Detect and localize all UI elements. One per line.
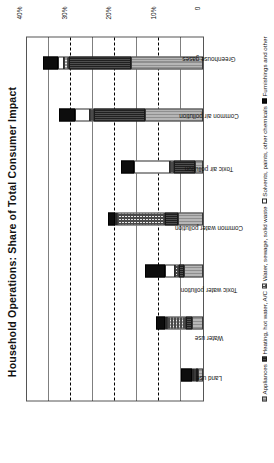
bar-segment[interactable] [108,212,115,225]
value-axis: 010%20%30%40% [26,4,204,34]
bar-segment[interactable] [165,212,178,225]
category-axis-label: Common water pollution [175,224,243,231]
bar-slot [27,37,203,89]
category-axis-label: Common air pollution [179,112,239,119]
chart-legend: AppliancesHeating, hot water, A/CWater, … [256,36,272,401]
bar-segment[interactable] [145,264,165,277]
bar-slot [27,89,203,141]
category-axis-label: Toxic air pollution [185,166,233,173]
legend-label: Appliances [261,364,268,394]
bar-slot [27,348,203,400]
bar-segment[interactable] [165,264,175,277]
bar-segment[interactable] [121,160,135,173]
bar-segment[interactable] [192,316,203,329]
category-axis-label: Toxic water pollution [181,286,238,293]
legend-item[interactable]: Furnishings and other [261,36,268,103]
legend-label: Heating, hot water, A/C [261,291,268,354]
bar-segment[interactable] [43,56,58,69]
legend-label: Solvents, paints, other chemicals [261,106,268,196]
chart-rotation-wrapper: Household Operations: Share of Total Con… [0,0,274,463]
category-axis-label: Water use [195,334,223,341]
bar-segment[interactable] [167,316,186,329]
stacked-bar[interactable] [43,56,203,69]
plot-area [26,36,204,401]
legend-item[interactable]: Appliances [261,364,268,401]
bar-segment[interactable] [178,212,203,225]
bar-slot [27,244,203,296]
bar-segment[interactable] [69,56,131,69]
bar-slot [27,296,203,348]
stacked-bar[interactable] [145,264,203,277]
bar-segment[interactable] [94,108,145,121]
bar-group [27,37,203,400]
bar-segment[interactable] [75,108,90,121]
legend-swatch-icon [262,356,267,361]
category-axis-label: Greenhouse gases [182,56,235,63]
value-axis-tick-label: 20% [105,6,112,19]
legend-label: Furnishings and other [261,36,268,96]
stacked-bar[interactable] [108,212,203,225]
value-axis-tick-label: 0 [194,6,201,10]
stacked-bar[interactable] [156,316,203,329]
category-axis-label: Land use [196,374,222,381]
legend-item[interactable]: Solvents, paints, other chemicals [261,106,268,203]
bar-segment[interactable] [134,160,170,173]
bar-segment[interactable] [181,368,191,381]
stacked-bar-chart: Household Operations: Share of Total Con… [0,0,274,463]
legend-item[interactable]: Water, sewage, solid waste [261,206,268,288]
legend-swatch-icon [262,283,267,288]
value-axis-tick-label: 10% [149,6,156,19]
bar-segment[interactable] [59,108,75,121]
legend-swatch-icon [262,198,267,203]
bar-segment[interactable] [156,316,164,329]
legend-label: Water, sewage, solid waste [261,206,268,281]
bar-segment[interactable] [117,212,165,225]
value-axis-tick-label: 40% [16,6,23,19]
bar-slot [27,193,203,245]
chart-title: Household Operations: Share of Total Con… [6,0,18,463]
bar-segment[interactable] [184,264,203,277]
bar-slot [27,141,203,193]
legend-swatch-icon [262,396,267,401]
value-axis-tick-label: 30% [60,6,67,19]
legend-swatch-icon [262,98,267,103]
legend-item[interactable]: Heating, hot water, A/C [261,291,268,361]
